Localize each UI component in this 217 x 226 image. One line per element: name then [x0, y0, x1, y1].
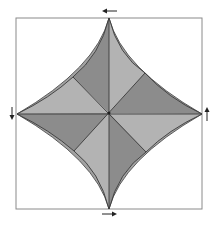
- arrow-right-up-icon: [205, 107, 210, 121]
- crease-pattern-diagram: [0, 0, 217, 226]
- arrow-top-left-icon: [102, 9, 117, 14]
- center-point: [108, 112, 111, 115]
- arrow-bottom-right-icon: [102, 212, 117, 217]
- arrow-left-down-icon: [10, 107, 15, 120]
